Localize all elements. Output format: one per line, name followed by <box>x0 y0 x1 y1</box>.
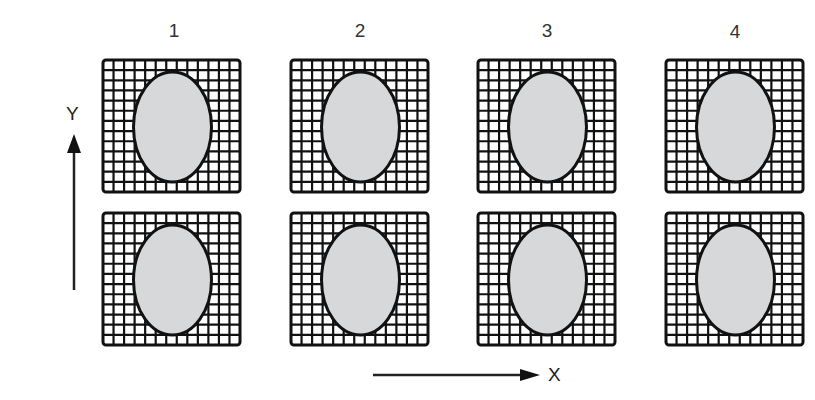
ellipse-shape <box>509 72 587 182</box>
ellipse-shape <box>322 72 400 182</box>
y-axis-label: Y <box>66 103 79 125</box>
ellipse-shape <box>509 225 587 335</box>
grid-cell-r2-c4 <box>666 213 803 345</box>
grid-cell-r2-c2 <box>291 213 428 345</box>
x-axis-label: X <box>548 364 561 386</box>
grid-cell-r1-c1 <box>103 60 240 192</box>
ellipse-shape <box>134 225 212 335</box>
grid-cell-r2-c3 <box>478 213 615 345</box>
grid-cell-r1-c4 <box>666 60 803 192</box>
grid-cell-r2-c1 <box>103 213 240 345</box>
ellipse-shape <box>697 72 775 182</box>
x-axis-arrow <box>373 369 540 381</box>
grid-cell-r1-c2 <box>291 60 428 192</box>
ellipse-shape <box>134 72 212 182</box>
ellipse-shape <box>322 225 400 335</box>
grid-cell-r1-c3 <box>478 60 615 192</box>
y-axis-arrow <box>67 134 81 290</box>
ellipse-shape <box>697 225 775 335</box>
grid-diagram <box>0 0 815 400</box>
